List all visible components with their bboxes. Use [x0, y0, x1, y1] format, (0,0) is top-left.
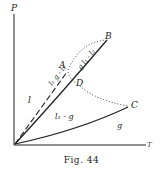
region-l1-g-label: l₁ - g [55, 113, 74, 121]
figure-caption: Fig. 44 [0, 155, 163, 165]
point-c-label: C [131, 101, 138, 110]
region-gas-label: g [117, 122, 122, 130]
point-d-label: D [76, 79, 83, 88]
dotted-curve-d-c [80, 86, 128, 106]
point-b-label: B [105, 32, 112, 41]
p-axis-label: P [11, 4, 17, 13]
t-axis-label: T [147, 142, 152, 149]
region-liquid-label: l [28, 96, 31, 105]
